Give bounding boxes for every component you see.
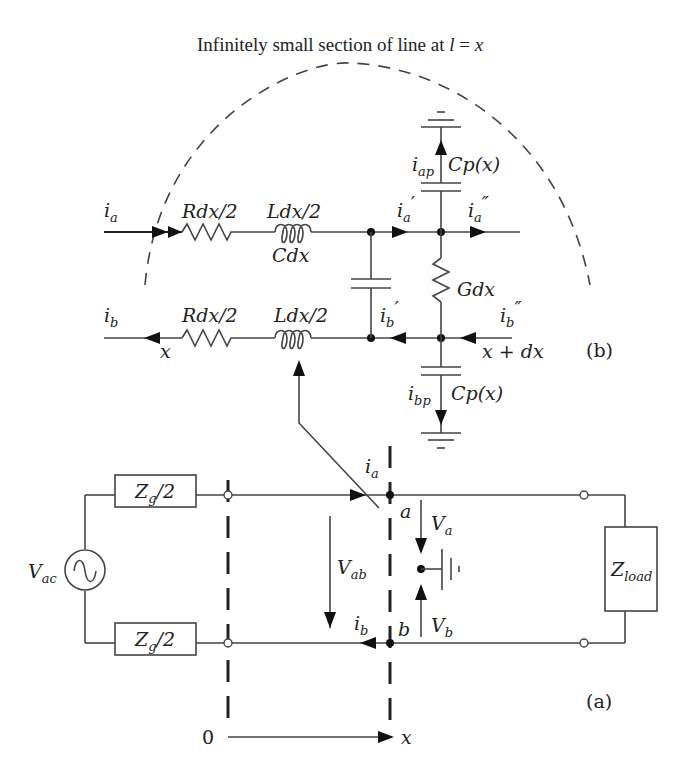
vb-arrow-icon xyxy=(415,584,427,600)
ibp-arrow-icon xyxy=(435,410,447,425)
label-vb: Vb xyxy=(431,614,453,640)
label-ibp: ibp xyxy=(408,382,431,408)
inductor-ldx-top xyxy=(275,225,311,243)
resistor-rdx-bottom xyxy=(182,330,275,346)
axis-origin: 0 xyxy=(202,726,214,748)
ia-input-arrow-icon xyxy=(152,226,168,238)
label-ia-prime: ia′ xyxy=(397,192,416,225)
label-iap: iap xyxy=(412,153,435,179)
label-vac: Vac xyxy=(28,560,57,586)
node-b xyxy=(386,639,394,647)
resistor-rdx-top xyxy=(182,224,275,240)
label-va: Va xyxy=(431,512,453,538)
label-ia-main: ia xyxy=(365,455,379,481)
ib-dprime-arrow-icon xyxy=(460,332,476,344)
ia-prime-arrow-icon xyxy=(392,226,408,238)
section-boundary-arc xyxy=(145,63,590,285)
label-ib-dprime: ib″ xyxy=(500,297,522,330)
label-ldx-top: Ldx/2 xyxy=(266,200,321,222)
label-gdx: Gdx xyxy=(457,278,495,300)
ia-dprime-arrow-icon xyxy=(470,226,486,238)
ib-main-arrow-icon xyxy=(360,637,376,649)
ib-prime-arrow-icon xyxy=(390,332,406,344)
vab-arrow-icon xyxy=(324,612,336,628)
label-rdx-bottom: Rdx/2 xyxy=(181,304,238,326)
label-ia-dprime: ia″ xyxy=(468,192,489,225)
label-node-b: b xyxy=(398,618,410,640)
node-a xyxy=(386,491,394,499)
label-b: (b) xyxy=(586,339,613,361)
label-ib-prime: ib′ xyxy=(380,297,399,330)
axis-x: x xyxy=(401,726,412,748)
main-circuit xyxy=(65,475,657,743)
transmission-line-diagram: Infinitely small section of line at l = … xyxy=(0,0,694,783)
top-conductor xyxy=(104,224,520,243)
va-arrow-icon xyxy=(415,538,427,554)
label-vab: Vab xyxy=(337,556,367,582)
label-rdx-top: Rdx/2 xyxy=(181,200,238,222)
ia-arrow-icon xyxy=(168,226,182,238)
iap-arrow-icon xyxy=(435,140,447,155)
label-cp-bottom: Cp(x) xyxy=(451,382,503,404)
label-ia: ia xyxy=(104,199,118,225)
label-node-a: a xyxy=(400,500,411,522)
pointer-arrow-icon xyxy=(293,360,305,376)
conductance-gdx xyxy=(433,232,449,338)
ib-arrow-icon xyxy=(144,332,160,344)
label-ib: ib xyxy=(104,304,118,330)
inductor-ldx-bottom xyxy=(275,331,311,349)
label-x: x xyxy=(160,340,171,362)
axis-arrow-icon xyxy=(378,731,394,743)
label-cp-top: Cp(x) xyxy=(448,153,500,175)
label-ib-main: ib xyxy=(354,612,368,638)
label-a: (a) xyxy=(586,690,612,712)
diagram-title: Infinitely small section of line at l = … xyxy=(197,34,484,55)
zoom-pointer xyxy=(293,360,379,508)
label-cdx: Cdx xyxy=(272,244,310,266)
label-ldx-bottom: Ldx/2 xyxy=(273,304,328,326)
label-x-plus-dx: x + dx xyxy=(482,340,544,362)
